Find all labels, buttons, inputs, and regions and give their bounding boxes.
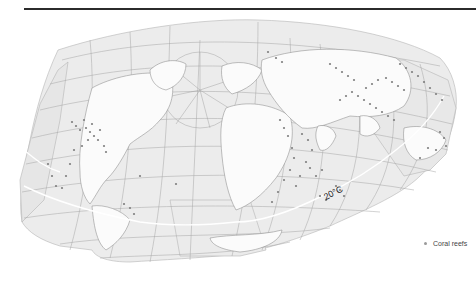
coral-reef-dot-icon xyxy=(424,242,427,245)
legend: Coral reefs xyxy=(424,240,467,247)
world-map xyxy=(0,0,476,282)
legend-label-coral-reefs: Coral reefs xyxy=(433,240,467,247)
